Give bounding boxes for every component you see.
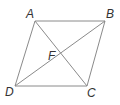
parallelogram-diagram: A B C D F bbox=[0, 0, 120, 105]
vertex-label-a: A bbox=[25, 7, 34, 21]
vertex-label-b: B bbox=[106, 7, 114, 21]
diagonal-ac bbox=[35, 21, 87, 86]
edge-da bbox=[15, 21, 35, 86]
edge-bc bbox=[87, 21, 105, 86]
vertex-label-d: D bbox=[5, 85, 14, 99]
intersection-label-f: F bbox=[48, 49, 56, 63]
vertex-label-c: C bbox=[87, 86, 96, 100]
diagonal-bd bbox=[15, 21, 105, 86]
